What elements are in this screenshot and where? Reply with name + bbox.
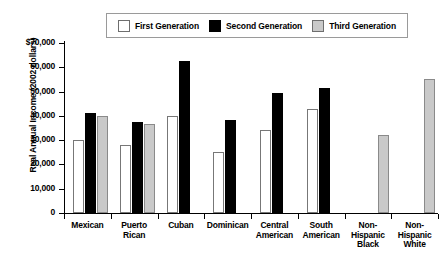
x-tick-mark bbox=[158, 214, 159, 219]
x-tick-mark bbox=[111, 214, 112, 219]
legend-item-second-generation: Second Generation bbox=[209, 20, 302, 32]
bar-third-generation bbox=[97, 116, 108, 213]
y-tick-label: 40,000 bbox=[30, 110, 55, 120]
y-tick-label: 50,000 bbox=[30, 86, 55, 96]
y-tick-label: 30,000 bbox=[30, 134, 55, 144]
bar-first-generation bbox=[260, 130, 271, 213]
black-square-icon bbox=[209, 20, 221, 32]
x-axis-label: Mexican bbox=[64, 221, 111, 231]
x-axis-label: SouthAmerican bbox=[298, 221, 345, 240]
bar-third-generation bbox=[378, 135, 389, 213]
x-tick-mark bbox=[345, 214, 346, 219]
x-axis-label: Non-HispanicBlack bbox=[345, 221, 392, 250]
legend-label-third-generation: Third Generation bbox=[329, 21, 396, 31]
x-tick-mark bbox=[251, 214, 252, 219]
bar-first-generation bbox=[307, 109, 318, 213]
bar-second-generation bbox=[85, 113, 96, 213]
x-axis-label: Cuban bbox=[158, 221, 205, 231]
y-tick-label: 20,000 bbox=[30, 158, 55, 168]
x-axis-label: PuertoRican bbox=[111, 221, 158, 240]
bar-first-generation bbox=[167, 116, 178, 213]
bar-first-generation bbox=[213, 152, 224, 213]
bar-first-generation bbox=[120, 145, 131, 213]
bar-second-generation bbox=[132, 122, 143, 213]
chart-legend: First Generation Second Generation Third… bbox=[106, 13, 408, 38]
gray-square-icon bbox=[312, 20, 324, 32]
bar-second-generation bbox=[319, 88, 330, 213]
legend-item-third-generation: Third Generation bbox=[312, 20, 396, 32]
legend-label-second-generation: Second Generation bbox=[226, 21, 302, 31]
bar-third-generation bbox=[424, 79, 435, 213]
y-tick-label: 10,000 bbox=[30, 183, 55, 193]
income-by-generation-bar-chart: First Generation Second Generation Third… bbox=[0, 0, 442, 263]
bar-second-generation bbox=[272, 93, 283, 213]
white-square-icon bbox=[118, 20, 130, 32]
x-tick-mark bbox=[204, 214, 205, 219]
legend-label-first-generation: First Generation bbox=[135, 21, 199, 31]
plot-area bbox=[64, 43, 438, 213]
x-axis-label: Dominican bbox=[204, 221, 251, 231]
x-tick-mark bbox=[391, 214, 392, 219]
bar-first-generation bbox=[73, 140, 84, 213]
bar-second-generation bbox=[225, 120, 236, 214]
y-tick-label: 0 bbox=[50, 207, 55, 217]
chart-title-clipped bbox=[110, 0, 350, 6]
y-tick-label: $70,000 bbox=[26, 37, 55, 47]
bar-third-generation bbox=[144, 124, 155, 213]
y-tick-label: 60,000 bbox=[30, 61, 55, 71]
x-tick-mark bbox=[64, 214, 65, 219]
x-tick-mark bbox=[438, 214, 439, 219]
legend-item-first-generation: First Generation bbox=[118, 20, 199, 32]
x-axis-label: CentralAmerican bbox=[251, 221, 298, 240]
x-tick-mark bbox=[298, 214, 299, 219]
x-axis-label: Non-HispanicWhite bbox=[391, 221, 438, 250]
bar-second-generation bbox=[179, 61, 190, 213]
